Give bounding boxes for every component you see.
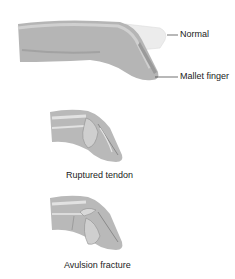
caption-avulsion-fracture: Avulsion fracture (64, 260, 131, 270)
label-normal: Normal (180, 29, 209, 39)
label-mallet-finger: Mallet finger (180, 71, 229, 81)
diagram-canvas (0, 0, 235, 279)
ruptured-tendon-illustration (50, 110, 122, 162)
caption-ruptured-tendon: Ruptured tendon (66, 170, 133, 180)
avulsion-fracture-illustration (50, 196, 122, 250)
finger-illustration-top (18, 20, 178, 80)
